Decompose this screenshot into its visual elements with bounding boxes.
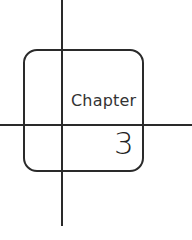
chapter-number: 3 bbox=[114, 128, 134, 159]
chapter-label: Chapter bbox=[71, 91, 136, 110]
